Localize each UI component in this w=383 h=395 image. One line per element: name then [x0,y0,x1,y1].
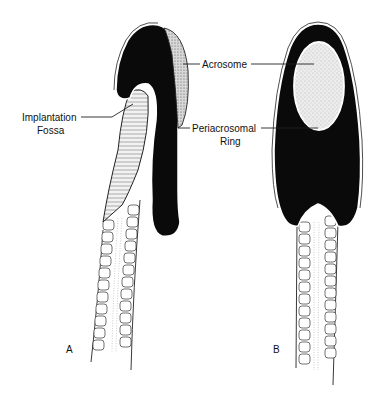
acrosome-label: Acrosome [202,59,247,70]
label-implantation-fossa: Implantation Fossa [22,104,133,136]
implantation-fossa-label-line2: Fossa [37,125,65,136]
sperm-head-diagram: Acrosome Implantation Fossa Periacrosoma… [0,0,383,395]
periacrosomal-ring-label-line1: Periacrosomal [192,123,256,134]
tail-b-cells-left [299,222,310,364]
tail-a [91,200,140,370]
panel-a-sperm [91,23,188,370]
tail-b-cells-right [325,216,336,358]
tail-a-cells-right [120,205,139,347]
panel-label-a: A [66,344,73,355]
implantation-fossa-label-line1: Implantation [22,112,76,123]
tail-a-cells-left [93,220,114,350]
panel-label-b: B [273,344,280,355]
acrosome-b [294,42,344,130]
tail-b [296,216,338,385]
neck-a [103,90,148,222]
panel-b-sperm [272,22,363,385]
periacrosomal-ring-label-line2: Ring [220,136,241,147]
